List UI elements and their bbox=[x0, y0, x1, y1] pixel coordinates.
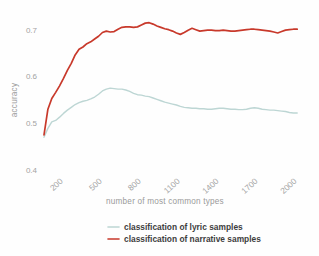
y-tick-label: 0.4 bbox=[26, 166, 38, 175]
x-axis-label: number of most common types bbox=[106, 197, 224, 206]
y-tick-label: 0.6 bbox=[26, 72, 38, 81]
y-axis-label: accuracy bbox=[10, 82, 19, 117]
legend-label: classification of narrative samples bbox=[124, 234, 261, 244]
line-chart: 0.40.50.60.7 2005008001100140017002000 a… bbox=[0, 0, 319, 256]
y-tick-label: 0.5 bbox=[26, 119, 38, 128]
legend-label: classification of lyric samples bbox=[124, 222, 243, 232]
chart-figure: 0.40.50.60.7 2005008001100140017002000 a… bbox=[0, 0, 319, 256]
y-tick-label: 0.7 bbox=[26, 26, 38, 35]
